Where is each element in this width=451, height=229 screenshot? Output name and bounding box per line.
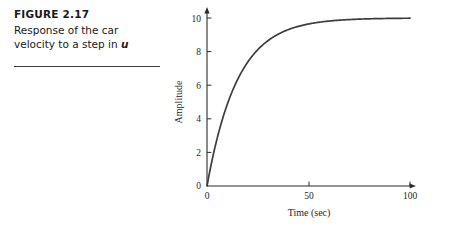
x-axis-arrowhead [410,183,416,188]
figure-caption-text: Response of the car velocity to a step i… [14,23,164,51]
y-tick-label-2: 2 [196,148,201,158]
x-axis-title: Time (sec) [288,207,331,219]
x-tick-label-100: 100 [403,191,418,201]
y-axis-title: Amplitude [173,80,184,123]
caption-variable-u: u [121,38,128,50]
step-response-curve [207,18,410,186]
chart-svg: 10 8 6 4 2 0 0 50 100 Time (sec) Amplitu… [168,0,451,229]
x-tick-label-50: 50 [304,191,314,201]
caption-divider-rule [14,66,160,67]
figure-caption: FIGURE 2.17 Response of the car velocity… [14,8,166,51]
y-axis-arrowhead [204,7,209,13]
figure-page: FIGURE 2.17 Response of the car velocity… [0,0,451,229]
caption-line-2-prefix: velocity to a step in [14,38,121,50]
y-axis-ticks [207,18,211,152]
x-axis-tick-labels: 0 50 100 [205,191,418,201]
x-axis-ticks [309,182,410,186]
y-tick-label-6: 6 [196,81,201,91]
figure-number-label: FIGURE 2.17 [14,8,166,21]
y-tick-label-4: 4 [196,114,201,124]
x-axis [207,183,416,188]
step-response-chart: 10 8 6 4 2 0 0 50 100 Time (sec) Amplitu… [168,0,451,229]
y-axis [204,7,209,186]
y-tick-label-8: 8 [196,47,201,57]
y-tick-label-0: 0 [196,181,201,191]
x-tick-label-0: 0 [205,191,210,201]
y-axis-tick-labels: 10 8 6 4 2 0 [192,14,202,192]
caption-line-1: Response of the car [14,24,118,36]
y-tick-label-10: 10 [192,14,202,24]
